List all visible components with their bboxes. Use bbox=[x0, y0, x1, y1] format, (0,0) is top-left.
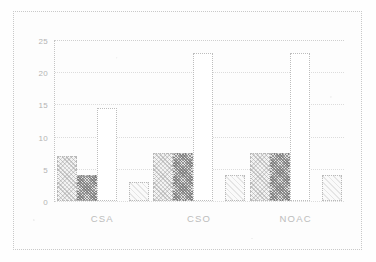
bar-csa-series-3 bbox=[97, 108, 117, 201]
bar-noac-series-1 bbox=[250, 153, 270, 201]
chart-figure: 25 20 15 10 5 0 bbox=[0, 0, 376, 262]
plot-area: 25 20 15 10 5 0 bbox=[54, 40, 344, 202]
x-axis-labels: CSA CSO NOAC bbox=[54, 213, 344, 224]
bar-cso-series-2 bbox=[173, 153, 193, 201]
bar-groups bbox=[55, 40, 344, 201]
bar-cso-series-3 bbox=[193, 53, 213, 201]
bar-group-cso bbox=[151, 40, 247, 201]
bar-csa-series-4 bbox=[129, 182, 149, 201]
bar-cso-series-4 bbox=[225, 175, 245, 201]
bar-csa-series-2 bbox=[77, 175, 97, 201]
gridline-0: 0 bbox=[55, 201, 344, 202]
bar-cso-series-1 bbox=[153, 153, 173, 201]
x-tick-label-cso: CSO bbox=[151, 213, 248, 224]
y-tick-label-0: 0 bbox=[43, 198, 48, 207]
y-tick-label-5: 5 bbox=[43, 165, 48, 174]
x-tick-label-csa: CSA bbox=[54, 213, 151, 224]
bar-noac-series-4 bbox=[322, 175, 342, 201]
y-tick-label-25: 25 bbox=[39, 37, 49, 46]
bar-group-csa bbox=[55, 40, 151, 201]
y-tick-label-15: 15 bbox=[39, 101, 49, 110]
bar-noac-series-3 bbox=[290, 53, 310, 201]
bar-noac-series-2 bbox=[270, 153, 290, 201]
bar-csa-series-1 bbox=[57, 156, 77, 201]
x-tick-label-noac: NOAC bbox=[247, 213, 344, 224]
y-tick-label-10: 10 bbox=[39, 133, 49, 142]
plot-wrapper: 25 20 15 10 5 0 bbox=[0, 0, 376, 262]
y-tick-label-20: 20 bbox=[39, 69, 49, 78]
bar-group-noac bbox=[248, 40, 344, 201]
